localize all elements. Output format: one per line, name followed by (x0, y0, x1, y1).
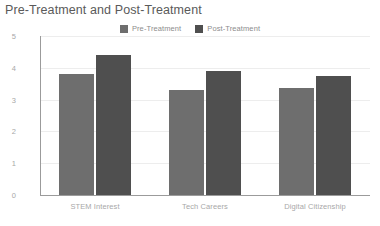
x-axis-labels: STEM InterestTech CareersDigital Citizen… (40, 200, 370, 220)
x-tick-label: STEM Interest (70, 202, 119, 211)
bar[interactable] (316, 76, 351, 195)
x-tick-label: Digital Citizenship (284, 202, 346, 211)
bar[interactable] (169, 90, 204, 195)
bar[interactable] (59, 74, 94, 195)
legend-label: Post-Treatment (207, 24, 260, 33)
y-tick-label: 5 (12, 32, 16, 41)
bars-layer (40, 36, 370, 195)
y-tick-label: 0 (12, 191, 16, 200)
legend-swatch-icon (120, 25, 128, 33)
bar[interactable] (206, 71, 241, 195)
legend-item-pre-treatment[interactable]: Pre-Treatment (120, 24, 181, 33)
bar[interactable] (96, 55, 131, 195)
x-axis-line (40, 195, 370, 196)
plot-area: 012345 STEM InterestTech CareersDigital … (0, 36, 380, 226)
chart-legend: Pre-Treatment Post-Treatment (0, 24, 380, 33)
y-tick-label: 2 (12, 127, 16, 136)
y-tick-label: 3 (12, 95, 16, 104)
bar[interactable] (279, 88, 314, 195)
legend-item-post-treatment[interactable]: Post-Treatment (195, 24, 260, 33)
x-tick-label: Tech Careers (182, 202, 228, 211)
y-tick-label: 4 (12, 63, 16, 72)
chart-title: Pre-Treatment and Post-Treatment (5, 3, 202, 17)
legend-label: Pre-Treatment (132, 24, 181, 33)
bar-chart: Pre-Treatment and Post-Treatment Pre-Tre… (0, 0, 380, 226)
y-axis: 012345 (0, 36, 40, 196)
y-tick-label: 1 (12, 159, 16, 168)
legend-swatch-icon (195, 25, 203, 33)
